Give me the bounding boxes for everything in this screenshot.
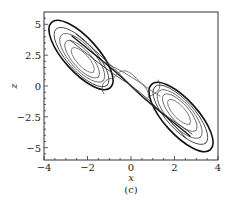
x-axis-ticks xyxy=(44,156,218,160)
x-tick-label: −4 xyxy=(37,162,52,173)
y-axis-label: z xyxy=(8,83,19,90)
y-axis-ticks xyxy=(44,18,48,154)
attractor-chart: −4 −2 0 2 4 5 2.5 0 −2.5 −5 x z (c) xyxy=(0,0,227,203)
y-tick-label: −5 xyxy=(26,143,41,154)
x-tick-label: 2 xyxy=(171,162,177,173)
y-tick-label: −2.5 xyxy=(17,112,41,123)
y-tick-label: 5 xyxy=(35,19,41,30)
x-axis-label: x xyxy=(128,172,134,183)
y-tick-label: 0 xyxy=(35,81,41,92)
attractor-trajectories xyxy=(39,11,223,161)
x-tick-label: 4 xyxy=(215,162,221,173)
x-tick-label: −2 xyxy=(80,162,95,173)
figure-caption: (c) xyxy=(124,184,138,195)
y-tick-label: 2.5 xyxy=(25,50,41,61)
